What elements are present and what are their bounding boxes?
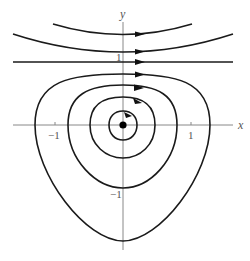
- arrow-icon: [135, 32, 145, 38]
- arrow-icon: [135, 72, 145, 78]
- arrow-icon: [135, 49, 145, 55]
- y-axis-label: y: [119, 7, 126, 21]
- phase-portrait: x y −1 1 1 −1: [0, 0, 250, 261]
- y-tick-label-neg1: −1: [110, 188, 122, 200]
- arrow-icon: [135, 59, 145, 65]
- center-equilibrium-point: [119, 121, 126, 128]
- x-tick-label-neg1: −1: [48, 129, 60, 141]
- x-tick-label-1: 1: [188, 129, 194, 141]
- x-axis-label: x: [237, 118, 244, 132]
